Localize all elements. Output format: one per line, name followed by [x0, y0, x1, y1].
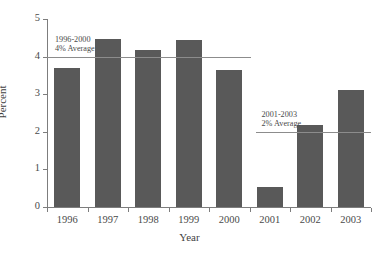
- annotation-average-label: 4% Average: [55, 44, 95, 54]
- y-tick-label: 1: [22, 163, 40, 173]
- x-tick-mark: [88, 208, 89, 212]
- annotation-4pct: 1996-20004% Average: [55, 35, 95, 54]
- y-tick-label: 4: [22, 51, 40, 61]
- x-tick-label-2003: 2003: [328, 214, 374, 226]
- x-tick-mark: [209, 208, 210, 212]
- plot-area: [47, 19, 371, 207]
- annotation-2pct: 2001-20032% Average: [262, 110, 302, 129]
- annotation-period-label: 2001-2003: [262, 110, 302, 120]
- x-tick-label-2002: 2002: [287, 214, 333, 226]
- x-axis-title: Year: [0, 231, 379, 243]
- x-tick-label-1999: 1999: [166, 214, 212, 226]
- reference-lines-layer: [47, 19, 371, 207]
- annotation-period-label: 1996-2000: [55, 35, 95, 45]
- x-tick-label-1998: 1998: [125, 214, 171, 226]
- x-tick-label-1996: 1996: [44, 214, 90, 226]
- x-tick-mark: [371, 208, 372, 212]
- bar-chart-figure: Percent Year 012345 19961997199819992000…: [0, 0, 379, 254]
- reference-line-2pct: [256, 132, 372, 133]
- y-axis-title: Percent: [0, 86, 8, 119]
- annotation-average-label: 2% Average: [262, 119, 302, 129]
- y-tick-label: 0: [22, 201, 40, 211]
- x-tick-label-1997: 1997: [85, 214, 131, 226]
- x-tick-mark: [331, 208, 332, 212]
- y-tick-label: 3: [22, 88, 40, 98]
- x-tick-label-2001: 2001: [247, 214, 293, 226]
- x-tick-mark: [290, 208, 291, 212]
- x-tick-mark: [169, 208, 170, 212]
- x-tick-label-2000: 2000: [206, 214, 252, 226]
- x-tick-mark: [128, 208, 129, 212]
- x-tick-mark: [47, 208, 48, 212]
- y-tick-label: 2: [22, 126, 40, 136]
- y-tick-label: 5: [22, 13, 40, 23]
- x-tick-mark: [250, 208, 251, 212]
- reference-line-4pct: [47, 57, 251, 58]
